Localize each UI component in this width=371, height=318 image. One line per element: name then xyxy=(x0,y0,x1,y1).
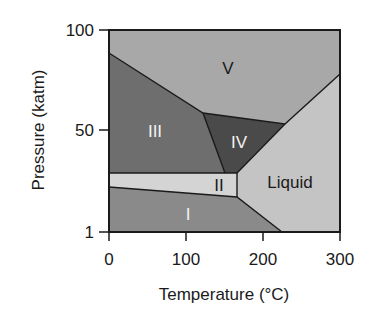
region-label-i: I xyxy=(186,205,191,224)
y-axis xyxy=(99,30,109,232)
y-tick-label: 50 xyxy=(75,121,94,140)
region-label-iv: IV xyxy=(231,133,248,152)
region-label-v: V xyxy=(222,59,234,78)
region-label-iii: III xyxy=(148,122,162,141)
x-tick-label: 0 xyxy=(104,250,113,269)
region-label-ii: II xyxy=(214,176,223,195)
y-axis-label: Pressure (katm) xyxy=(29,70,48,191)
region-label-liquid: Liquid xyxy=(267,173,312,192)
x-tick-label: 300 xyxy=(326,250,354,269)
x-tick-label: 100 xyxy=(172,250,200,269)
x-axis-label: Temperature (°C) xyxy=(159,285,290,304)
y-tick-label: 1 xyxy=(85,223,94,242)
y-tick-label: 100 xyxy=(66,21,94,40)
x-axis xyxy=(109,232,340,241)
phase-diagram-chart: 100 50 1 0 100 200 300 Temperature (°C) … xyxy=(0,0,371,318)
x-tick-label: 200 xyxy=(249,250,277,269)
